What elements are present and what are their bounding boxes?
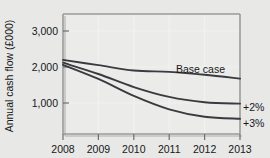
x-tick-label-2013: 2013 <box>228 143 252 155</box>
x-tick-label-2009: 2009 <box>87 143 111 155</box>
y-tick-label-2000: 2,000 <box>32 61 58 73</box>
y-tick-label-1000: 1,000 <box>32 97 58 109</box>
series-label-base-case: Base case <box>176 63 225 75</box>
y-axis-title: Annual cash flow (£000) <box>3 20 15 133</box>
x-tick-label-2010: 2010 <box>122 143 146 155</box>
x-tick-label-2011: 2011 <box>158 143 181 155</box>
series-label-plus-2-percent: +2% <box>243 101 264 113</box>
series-label-plus-3-percent: +3% <box>243 117 264 129</box>
cash-flow-line-chart: Annual cash flow (£000) 3,000 2,000 1,00… <box>0 0 270 158</box>
x-tick-label-2008: 2008 <box>51 143 75 155</box>
x-tick-label-2012: 2012 <box>193 143 217 155</box>
chart-svg: Annual cash flow (£000) 3,000 2,000 1,00… <box>0 0 270 158</box>
y-tick-label-3000: 3,000 <box>32 25 58 37</box>
